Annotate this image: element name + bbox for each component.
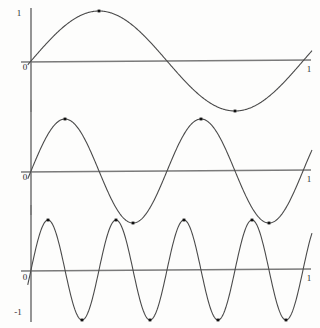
data-point-marker — [285, 319, 288, 322]
data-point-marker — [217, 319, 220, 322]
data-point-marker — [132, 222, 135, 225]
panel3-origin-label: 0 — [23, 272, 28, 282]
panel1-x-end-label: 1 — [307, 64, 312, 74]
data-point-marker — [268, 222, 271, 225]
panel-sine-2-periods: 0 1 — [21, 100, 312, 224]
sine-waves-figure: 1 0 1 0 1 0 1 -1 — [0, 0, 320, 328]
panel1-y-top-label: 1 — [17, 8, 22, 18]
data-point-marker — [115, 219, 118, 222]
panel2-origin-label: 0 — [23, 172, 28, 182]
data-point-marker — [149, 319, 152, 322]
data-point-marker — [183, 219, 186, 222]
data-point-marker — [234, 110, 237, 113]
data-point-marker — [98, 10, 101, 13]
panel2-x-end-label: 1 — [307, 174, 312, 184]
data-point-marker — [251, 219, 254, 222]
panel1-origin-label: 0 — [23, 62, 28, 72]
panel-sine-1-period: 1 0 1 — [17, 8, 312, 112]
panel2-x-axis — [21, 170, 311, 172]
panel3-y-bottom-label: -1 — [14, 307, 22, 317]
data-point-marker — [64, 118, 67, 121]
plot-canvas: 1 0 1 0 1 0 1 -1 — [0, 0, 320, 328]
panel3-x-end-label: 1 — [307, 273, 312, 283]
data-point-marker — [81, 319, 84, 322]
data-point-marker — [200, 118, 203, 121]
data-point-marker — [47, 219, 50, 222]
